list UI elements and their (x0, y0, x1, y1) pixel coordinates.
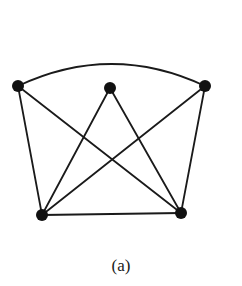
node-bottom-right (175, 207, 187, 219)
node-top-left (12, 80, 24, 92)
edge-top-left-bottom-right (18, 86, 181, 213)
node-top-middle (104, 82, 116, 94)
graph-nodes (12, 80, 211, 221)
edge-top-right-bottom-right (181, 86, 205, 213)
edge-top-left-bottom-left (18, 86, 42, 215)
edge-top-middle-bottom-left (42, 88, 110, 215)
figure-caption: (a) (0, 256, 242, 276)
edge-top-right-bottom-left (42, 86, 205, 215)
graph-diagram (0, 0, 242, 286)
edge-bottom-left-bottom-right (42, 213, 181, 215)
node-top-right (199, 80, 211, 92)
edge-top-middle-bottom-right (110, 88, 181, 213)
node-bottom-left (36, 209, 48, 221)
